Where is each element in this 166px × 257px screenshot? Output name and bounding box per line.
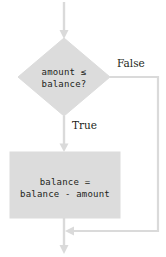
flowchart-canvas: amount ≤ balance? balance = balance - am…: [0, 0, 166, 257]
process-text-line-2: balance - amount: [20, 189, 110, 199]
false-branch-label: False: [117, 57, 145, 69]
decision-node-label: amount ≤ balance?: [0, 66, 128, 90]
decision-text-line-2: balance?: [42, 79, 87, 89]
exit-arrowhead: [60, 245, 69, 254]
decision-text-line-1: amount ≤: [42, 67, 87, 77]
process-node-label: balance = balance - amount: [0, 176, 130, 200]
false-branch-arrowhead: [65, 227, 74, 236]
true-branch-arrowhead: [60, 144, 69, 153]
true-branch-label: True: [72, 119, 97, 131]
process-text-line-1: balance =: [40, 177, 91, 187]
